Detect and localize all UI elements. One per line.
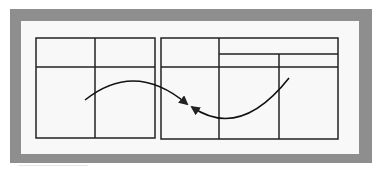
table-diagram [0, 0, 381, 170]
left-to-center-arrow-icon [85, 81, 187, 104]
left-table [36, 38, 155, 138]
right-to-center-arrow-icon [192, 78, 289, 118]
table-border [161, 38, 338, 139]
right-table [161, 38, 338, 139]
